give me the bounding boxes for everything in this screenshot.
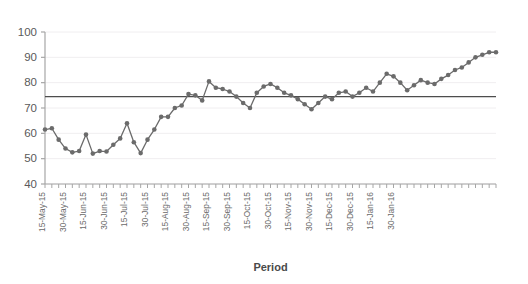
x-axis-label: 15-Nov-15	[283, 192, 293, 231]
data-point-marker	[63, 146, 68, 151]
data-point-marker	[186, 92, 191, 97]
data-point-marker	[405, 88, 410, 93]
data-point-marker	[419, 78, 424, 83]
data-point-marker	[104, 149, 109, 154]
data-point-marker	[152, 127, 157, 132]
data-point-marker	[391, 74, 396, 79]
data-point-marker	[302, 102, 307, 107]
data-point-marker	[432, 82, 437, 87]
data-point-marker	[473, 55, 478, 60]
x-axis-label: 15-Jan-16	[365, 192, 375, 230]
x-axis-label: 30-Jul-15	[140, 192, 150, 227]
data-point-marker	[309, 107, 314, 112]
x-axis-label: 30-Dec-15	[345, 192, 355, 231]
y-axis-label-40: 40	[24, 178, 37, 190]
data-point-marker	[193, 93, 198, 98]
data-point-marker	[296, 97, 301, 102]
data-point-marker	[446, 73, 451, 78]
data-point-marker	[118, 136, 123, 141]
x-axis-label: 15-Jun-15	[78, 192, 88, 230]
data-point-marker	[43, 127, 48, 132]
data-point-marker	[207, 79, 212, 84]
data-point-marker	[241, 101, 246, 106]
y-axis-label-80: 80	[24, 76, 37, 88]
y-axis-label-100: 100	[18, 26, 37, 38]
data-point-marker	[350, 94, 355, 99]
data-point-marker	[138, 151, 143, 156]
data-point-marker	[343, 89, 348, 94]
data-point-marker	[487, 50, 492, 55]
data-point-marker	[248, 106, 253, 111]
data-point-marker	[275, 85, 280, 90]
data-point-marker	[330, 97, 335, 102]
data-point-marker	[214, 85, 219, 90]
x-axis-label: 15-Oct-15	[242, 192, 252, 230]
data-point-marker	[84, 132, 89, 137]
data-point-marker	[460, 65, 465, 70]
x-axis-label: 30-Sep-15	[222, 192, 232, 231]
data-point-marker	[480, 53, 485, 58]
data-point-marker	[166, 115, 171, 120]
y-axis-label-60: 60	[24, 127, 37, 139]
data-point-marker	[337, 91, 342, 96]
data-point-marker	[200, 98, 205, 103]
data-point-marker	[97, 149, 102, 154]
data-point-marker	[50, 126, 55, 131]
x-axis-label: 30-Aug-15	[181, 192, 191, 231]
x-axis-label: 30-Nov-15	[304, 192, 314, 231]
data-point-marker	[261, 84, 266, 89]
data-point-marker	[227, 89, 232, 94]
data-point-marker	[91, 151, 96, 156]
data-series-line	[45, 52, 496, 153]
data-point-marker	[179, 103, 184, 108]
x-axis-label: 30-Jun-15	[99, 192, 109, 230]
data-point-marker	[111, 142, 116, 147]
data-point-marker	[357, 91, 362, 96]
x-axis-label: 30-May-15	[58, 192, 68, 232]
data-point-marker	[466, 60, 471, 65]
data-point-marker	[77, 149, 82, 154]
data-point-marker	[384, 72, 389, 77]
data-point-marker	[412, 83, 417, 88]
y-axis-label-90: 90	[24, 51, 37, 63]
data-point-marker	[268, 82, 273, 87]
x-axis-label: 30-Oct-15	[263, 192, 273, 230]
x-axis-label: 15-Dec-15	[324, 192, 334, 231]
data-point-marker	[125, 121, 130, 126]
y-axis-label-50: 50	[24, 152, 37, 164]
data-point-marker	[425, 80, 430, 85]
x-axis-title: Period	[253, 261, 287, 273]
data-point-marker	[439, 77, 444, 82]
y-axis-label-70: 70	[24, 102, 37, 114]
data-point-marker	[282, 91, 287, 96]
data-point-marker	[255, 91, 260, 96]
data-point-marker	[132, 140, 137, 145]
data-point-marker	[316, 101, 321, 106]
data-point-marker	[70, 150, 75, 155]
x-axis-label: 15-Jul-15	[119, 192, 129, 227]
data-point-marker	[323, 94, 328, 99]
data-point-marker	[453, 68, 458, 73]
chart-canvas: 40506070809010015-May-1530-May-1515-Jun-…	[0, 0, 528, 284]
data-point-marker	[145, 137, 150, 142]
data-point-marker	[173, 106, 178, 111]
data-point-marker	[494, 50, 499, 55]
data-point-marker	[220, 87, 225, 92]
data-point-marker	[371, 89, 376, 94]
data-point-marker	[364, 85, 369, 90]
x-axis-label: 30-Jan-16	[386, 192, 396, 230]
x-axis-label: 15-May-15	[37, 192, 47, 232]
data-point-marker	[159, 115, 164, 120]
data-point-marker	[398, 80, 403, 85]
line-chart: 40506070809010015-May-1530-May-1515-Jun-…	[0, 0, 528, 284]
data-point-marker	[289, 93, 294, 98]
data-point-marker	[234, 94, 239, 99]
x-axis-label: 15-Aug-15	[160, 192, 170, 231]
data-point-marker	[56, 137, 61, 142]
data-point-marker	[378, 80, 383, 85]
x-axis-label: 15-Sep-15	[201, 192, 211, 231]
